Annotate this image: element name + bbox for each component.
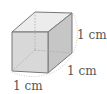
depth-label: 1 cm [67, 65, 97, 77]
width-label: 1 cm [13, 80, 43, 92]
height-label: 1 cm [77, 29, 107, 41]
cube-front-face [12, 32, 48, 73]
